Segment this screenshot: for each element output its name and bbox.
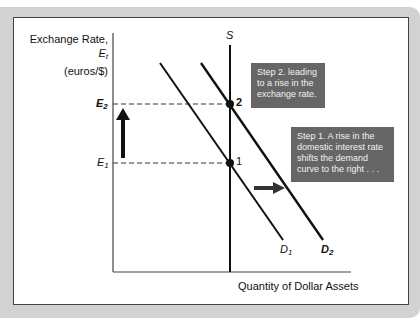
callout-step2: Step 2. leading to a rise in the exchang… bbox=[251, 63, 325, 108]
supply-label: S bbox=[226, 29, 233, 41]
level-label-e2: E2 bbox=[96, 97, 108, 111]
demand-label-d2: D2 bbox=[321, 243, 333, 257]
equilibrium-point-1 bbox=[226, 159, 234, 167]
callout-step1: Step 1. A rise in the domestic interest … bbox=[291, 127, 394, 182]
demand-label-d1: D1 bbox=[280, 243, 292, 257]
point-label-1: 1 bbox=[236, 155, 242, 167]
y-axis-label: Exchange Rate, Et (euros/$) bbox=[20, 32, 108, 78]
level-label-e1: E1 bbox=[97, 156, 109, 170]
point-label-2: 2 bbox=[236, 96, 242, 108]
x-axis-label: Quantity of Dollar Assets bbox=[238, 280, 358, 292]
equilibrium-point-2 bbox=[226, 100, 234, 108]
